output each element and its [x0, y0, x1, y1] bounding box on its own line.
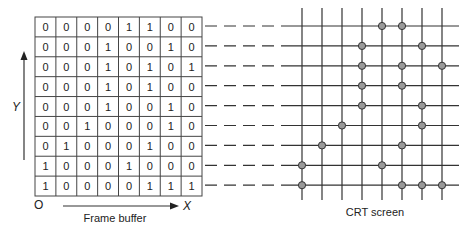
frame-buffer-cell: 0 [189, 41, 195, 53]
lit-pixel [358, 82, 365, 89]
lit-pixel [318, 142, 325, 149]
frame-buffer-cell: 0 [189, 140, 195, 152]
frame-buffer-cell: 1 [126, 21, 132, 33]
frame-buffer-cell: 0 [42, 81, 48, 93]
frame-buffer-grid [35, 17, 202, 196]
lit-pixel [398, 62, 405, 69]
frame-buffer-cell: 1 [105, 101, 111, 113]
frame-buffer-cell: 1 [168, 180, 174, 192]
frame-buffer-cell: 1 [63, 140, 69, 152]
origin-label: O [34, 198, 43, 212]
frame-buffer-cell: 0 [42, 41, 48, 53]
frame-buffer-cell: 0 [126, 81, 132, 93]
frame-buffer-cell: 0 [63, 180, 69, 192]
frame-buffer-cell: 0 [189, 81, 195, 93]
lit-pixel [378, 162, 385, 169]
lit-pixel [418, 42, 425, 49]
lit-pixel [398, 22, 405, 29]
frame-buffer-cell: 0 [189, 21, 195, 33]
frame-buffer-cell: 0 [63, 101, 69, 113]
frame-buffer-cell: 0 [84, 180, 90, 192]
frame-buffer-cell: 0 [126, 41, 132, 53]
lit-pixel [398, 182, 405, 189]
frame-buffer-cell: 0 [105, 180, 111, 192]
lit-pixel [378, 22, 385, 29]
lit-pixel [398, 82, 405, 89]
x-axis-arrowhead-icon [170, 203, 179, 210]
frame-buffer-cell: 0 [105, 140, 111, 152]
lit-pixel [358, 42, 365, 49]
frame-buffer-cell: 0 [168, 21, 174, 33]
frame-buffer-cell: 0 [168, 160, 174, 172]
y-axis: Y [12, 51, 28, 160]
frame-buffer-cell: 0 [168, 61, 174, 73]
scan-lines [205, 26, 292, 185]
frame-buffer-cell: 0 [189, 120, 195, 132]
frame-buffer-label: Frame buffer [84, 212, 147, 224]
lit-pixel [418, 122, 425, 129]
frame-buffer-cell: 1 [147, 61, 153, 73]
lit-pixel [298, 162, 305, 169]
frame-buffer-cell: 0 [63, 120, 69, 132]
frame-buffer-cell: 1 [147, 140, 153, 152]
frame-buffer-cell: 0 [63, 41, 69, 53]
frame-buffer-cell: 0 [84, 61, 90, 73]
frame-buffer-cell: 1 [147, 180, 153, 192]
frame-buffer-cell: 0 [189, 101, 195, 113]
frame-buffer-cell: 1 [147, 81, 153, 93]
frame-buffer-cell: 0 [84, 101, 90, 113]
frame-buffer-cell: 1 [168, 101, 174, 113]
crt-screen-grid [292, 8, 459, 200]
lit-pixel [438, 62, 445, 69]
lit-pixel [418, 102, 425, 109]
frame-buffer-cell: 1 [105, 81, 111, 93]
frame-buffer-cell: 0 [84, 41, 90, 53]
frame-buffer-cell: 0 [168, 140, 174, 152]
frame-buffer-cell: 0 [42, 140, 48, 152]
frame-buffer-cell: 0 [168, 81, 174, 93]
lit-pixel [298, 182, 305, 189]
frame-buffer-cell: 0 [105, 160, 111, 172]
frame-buffer-cell: 0 [84, 140, 90, 152]
frame-buffer-cell: 0 [84, 21, 90, 33]
frame-buffer-cell: 0 [63, 61, 69, 73]
frame-buffer-cell: 1 [189, 180, 195, 192]
frame-buffer-cell: 0 [84, 160, 90, 172]
frame-buffer-cell: 0 [126, 120, 132, 132]
frame-buffer-cell: 0 [63, 160, 69, 172]
frame-buffer-cell: 0 [42, 21, 48, 33]
frame-buffer-cell: 0 [63, 21, 69, 33]
frame-buffer-cell: 1 [168, 41, 174, 53]
frame-buffer-crt-diagram: 0000110000010010000101010001010000010010… [0, 0, 472, 232]
frame-buffer-cell: 0 [42, 120, 48, 132]
x-axis-label: X [182, 199, 192, 213]
x-axis: O X [34, 198, 192, 213]
frame-buffer-cell: 1 [42, 160, 48, 172]
frame-buffer-cell: 1 [105, 61, 111, 73]
lit-pixel [398, 142, 405, 149]
frame-buffer-cell: 1 [42, 180, 48, 192]
frame-buffer-cell: 0 [147, 120, 153, 132]
lit-pixel [358, 62, 365, 69]
frame-buffer-cell: 0 [189, 160, 195, 172]
y-axis-label: Y [12, 100, 21, 114]
frame-buffer-cell: 0 [63, 81, 69, 93]
frame-buffer-cell: 0 [147, 160, 153, 172]
frame-buffer-cell: 0 [126, 140, 132, 152]
frame-buffer-cell: 0 [126, 61, 132, 73]
frame-buffer-cell: 0 [84, 81, 90, 93]
frame-buffer-cell: 0 [126, 180, 132, 192]
lit-pixel [418, 182, 425, 189]
lit-pixel [358, 102, 365, 109]
lit-pixel [338, 122, 345, 129]
lit-pixel [438, 182, 445, 189]
frame-buffer-cell: 1 [126, 160, 132, 172]
frame-buffer-cell: 0 [147, 41, 153, 53]
frame-buffer-cell: 0 [105, 21, 111, 33]
frame-buffer-cell: 1 [168, 120, 174, 132]
frame-buffer-cell: 0 [147, 101, 153, 113]
crt-screen-label: CRT screen [346, 206, 404, 218]
frame-buffer-cell: 0 [42, 101, 48, 113]
frame-buffer-cell: 1 [84, 120, 90, 132]
y-axis-arrowhead-icon [21, 51, 28, 60]
